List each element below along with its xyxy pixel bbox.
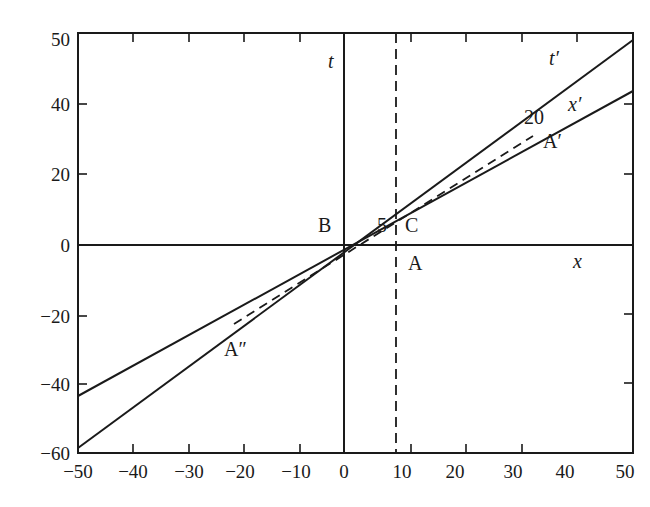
x-ticks-top [133, 33, 577, 42]
point-a-label: A [408, 252, 423, 274]
svg-text:50: 50 [51, 29, 70, 50]
y-ticks-right [624, 104, 633, 383]
svg-text:30: 30 [504, 461, 523, 482]
t-axis-label: t [328, 50, 334, 72]
point-b-label: B [318, 214, 331, 236]
svg-text:−20: −20 [225, 461, 255, 482]
x-tick-labels: −50 −40 −30 −20 −10 0 10 20 30 40 50 [63, 461, 634, 482]
x-prime-label: x′ [567, 93, 582, 115]
svg-text:40: 40 [556, 461, 575, 482]
y-tick-labels: 50 40 20 0 −20 −40 −60 [40, 29, 70, 464]
svg-text:20: 20 [446, 461, 465, 482]
svg-text:−40: −40 [40, 374, 70, 395]
point-a-double-prime-label: A″ [224, 338, 247, 360]
x-axis-label: x [572, 250, 582, 272]
svg-text:−50: −50 [63, 461, 93, 482]
label-5: 5 [377, 214, 387, 236]
svg-text:10: 10 [393, 461, 412, 482]
svg-text:−20: −20 [40, 306, 70, 327]
label-20: 20 [524, 106, 544, 128]
svg-text:−30: −30 [174, 461, 204, 482]
svg-text:20: 20 [51, 164, 70, 185]
point-a-prime-label: A′ [543, 130, 562, 152]
svg-text:−10: −10 [281, 461, 311, 482]
svg-text:50: 50 [616, 461, 635, 482]
point-c-label: C [405, 214, 418, 236]
svg-text:0: 0 [61, 235, 71, 256]
spacetime-diagram: −50 −40 −30 −20 −10 0 10 20 30 40 50 50 … [0, 0, 650, 507]
t-prime-label: t′ [549, 47, 560, 69]
svg-text:−60: −60 [40, 443, 70, 464]
svg-text:40: 40 [51, 94, 70, 115]
svg-text:0: 0 [339, 461, 349, 482]
svg-text:−40: −40 [118, 461, 148, 482]
x-ticks-bottom [133, 444, 522, 453]
